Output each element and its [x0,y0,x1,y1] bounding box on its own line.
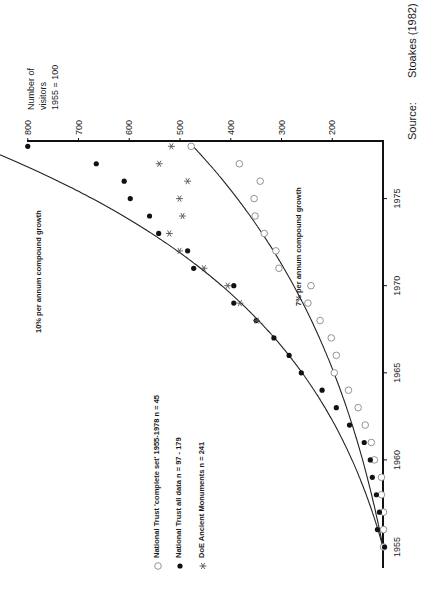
filled-circle-point [25,144,30,149]
filled-circle-point [147,213,152,218]
year-tick-label: 1975 [392,189,402,209]
growth-curve-7pct [193,146,383,547]
value-tick-label: 700 [74,120,84,135]
value-tick-label: 200 [327,120,337,135]
asterisk-point [166,230,173,236]
legend-item-complete-set: National Trust 'complete set' 1955-1978 … [152,395,161,558]
source-value: Stoakes (1982) [406,3,418,78]
open-circle-point [368,439,375,446]
open-circle-point [251,195,258,202]
value-tick-label: 400 [226,120,236,135]
filled-circle-point [368,457,373,462]
open-circle-point [380,526,387,533]
open-circle-point [308,282,315,289]
legend-asterisk-icon [200,563,207,569]
asterisk-point [179,213,186,219]
open-circle-point [257,178,264,185]
open-circle-point [355,404,362,411]
asterisk-point [156,161,163,167]
filled-circle-point [94,161,99,166]
filled-circle-point [382,544,387,549]
value-tick-label: 500 [175,120,185,135]
year-tick-label: 1955 [392,537,402,557]
legend-item-all-data: National Trust all data n = 97 - 179 [174,437,183,558]
open-circle-point [261,230,268,237]
filled-circle-point [370,475,375,480]
open-circle-point [188,143,195,150]
growth-curve-10pct [0,145,383,547]
asterisk-point [224,283,231,289]
filled-circle-point [362,440,367,445]
asterisk-point [184,178,191,184]
filled-circle-point [128,196,133,201]
open-circle-point [236,160,243,167]
yaxis-title-line1: Number of [26,68,36,110]
open-circle-point [273,248,280,255]
filled-circle-point [271,335,276,340]
open-circle-point [333,352,340,359]
filled-circle-point [287,353,292,358]
filled-circle-point [334,405,339,410]
curve-label-7pct: 7% per annum compound growth [294,187,303,306]
open-circle-point [378,474,385,481]
yaxis-title-line3: 1955 = 100 [50,65,60,110]
open-circle-point [328,335,335,342]
year-tick-label: 1960 [392,450,402,470]
filled-circle-point [231,283,236,288]
open-circle-point [276,265,283,272]
yaxis-title-line2: visitors [38,82,48,110]
value-tick-label: 600 [124,120,134,135]
filled-circle-point [191,266,196,271]
value-tick-label: 800 [23,120,33,135]
filled-circle-point [374,492,379,497]
asterisk-point [168,143,175,149]
open-circle-point [317,317,324,324]
open-circle-point [362,422,369,429]
filled-circle-point [156,231,161,236]
open-circle-point [252,213,259,220]
filled-circle-point [377,510,382,515]
year-tick-label: 1970 [392,276,402,296]
open-circle-point [331,370,338,377]
filled-circle-point [299,370,304,375]
filled-circle-point [122,179,127,184]
open-circle-point [345,387,352,394]
value-tick-label: 300 [277,120,287,135]
legend-item-doe: DoE Ancient Monuments n = 241 [197,442,206,558]
year-tick-label: 1965 [392,363,402,383]
filled-circle-point [375,527,380,532]
legend-open-circle-icon [155,563,162,570]
asterisk-point [236,300,243,306]
curve-label-10pct: 10% per annum compound growth [34,210,43,333]
filled-circle-point [347,422,352,427]
filled-circle-point [231,301,236,306]
open-circle-point [378,491,385,498]
chart-canvas: 2003004005006007008001955196019651970197… [0,0,433,602]
asterisk-point [176,196,183,202]
filled-circle-point [185,248,190,253]
filled-circle-point [320,388,325,393]
source-label: Source: [406,102,418,140]
legend-filled-circle-icon [177,563,182,568]
open-circle-point [305,300,312,307]
